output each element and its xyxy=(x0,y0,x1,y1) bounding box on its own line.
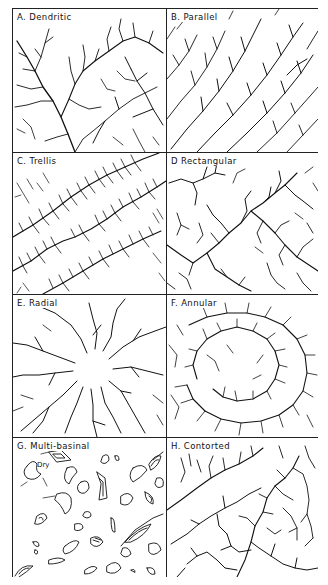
panel-label: E. Radial xyxy=(17,298,60,308)
contorted-pattern-drawing xyxy=(167,438,318,577)
panel-label: C. Trellis xyxy=(17,156,58,166)
multi-basinal-pattern-drawing xyxy=(13,438,166,577)
drainage-pattern-figure: A. Dendritic B. Parallel C. Trellis xyxy=(12,8,318,577)
panel-contorted: H. Contorted xyxy=(167,438,318,577)
panel-parallel: B. Parallel xyxy=(167,9,318,152)
panel-label: F. Annular xyxy=(171,298,219,308)
dry-annotation: Dry xyxy=(37,461,49,469)
radial-pattern-drawing xyxy=(13,295,166,437)
dendritic-pattern-drawing xyxy=(13,9,166,152)
rectangular-pattern-drawing xyxy=(167,153,318,294)
parallel-pattern-drawing xyxy=(167,9,318,152)
panel-rectangular: D Rectangular xyxy=(167,153,318,294)
panel-radial: E. Radial xyxy=(13,295,166,437)
panel-dendritic: A. Dendritic xyxy=(13,9,166,152)
panel-annular: F. Annular xyxy=(167,295,318,437)
panel-trellis: C. Trellis xyxy=(13,153,166,294)
panel-label: H. Contorted xyxy=(171,441,232,451)
panel-multi-basinal: G. Multi-basinal Dry xyxy=(13,438,166,577)
annular-pattern-drawing xyxy=(167,295,318,437)
trellis-pattern-drawing xyxy=(13,153,166,294)
panel-label: G. Multi-basinal xyxy=(17,441,92,451)
panel-label: D Rectangular xyxy=(171,156,239,166)
panel-label: B. Parallel xyxy=(171,12,220,22)
panel-label: A. Dendritic xyxy=(17,12,74,22)
